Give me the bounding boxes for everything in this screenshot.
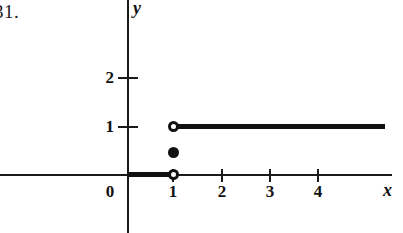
y-axis-line	[127, 0, 129, 233]
x-tick-label-2: 2	[213, 182, 231, 202]
ray-y-equals-one	[173, 124, 385, 129]
x-tick-4	[317, 169, 319, 182]
y-tick-label-2: 2	[98, 68, 114, 88]
x-tick-label-4: 4	[309, 182, 327, 202]
x-tick-label-1: 1	[164, 182, 182, 202]
open-circle-marker-at-1-0	[168, 169, 179, 180]
open-circle-marker-at-1-1	[168, 121, 179, 132]
graph-figure: 31. y x 1 2 3 4 0 1 2	[0, 0, 403, 233]
x-axis-line	[0, 174, 392, 176]
y-tick-2	[118, 77, 138, 79]
x-tick-label-3: 3	[261, 182, 279, 202]
x-tick-3	[269, 169, 271, 182]
x-tick-2	[221, 169, 223, 182]
origin-label: 0	[101, 182, 119, 202]
problem-number: 31.	[0, 1, 19, 23]
x-axis-label: x	[383, 180, 392, 201]
y-axis-label: y	[133, 0, 141, 19]
y-tick-1	[118, 126, 138, 128]
filled-dot-marker-at-1-half	[168, 147, 179, 158]
y-tick-label-1: 1	[98, 117, 114, 137]
